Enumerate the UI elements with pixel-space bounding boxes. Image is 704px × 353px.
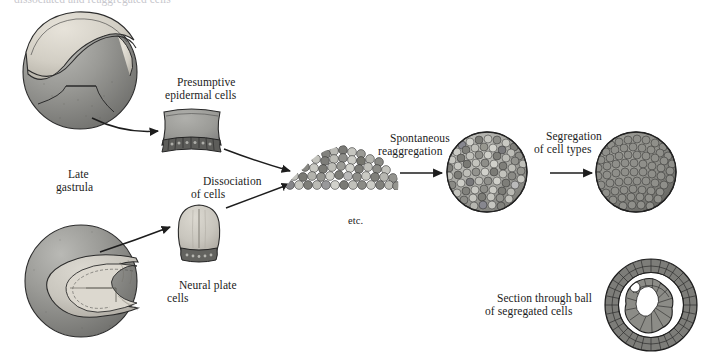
label-spontaneous-reaggregation: Spontaneous reaggregation	[378, 118, 450, 172]
label-dissociation-of-cells: Dissociation of cells	[191, 161, 262, 215]
diagram-artwork	[0, 0, 704, 353]
neurula-embryo	[25, 225, 138, 337]
segregated-sphere	[594, 132, 676, 212]
reaggregated-sphere	[445, 132, 527, 212]
late-gastrula-embryo	[23, 12, 137, 129]
label-neural-plate-cells: Neural plate cells	[167, 265, 237, 319]
figure-canvas: dissociated and reaggregated cells	[0, 0, 704, 353]
label-presumptive-epidermal-cells: Presumptive epidermal cells	[165, 62, 236, 116]
label-etc: etc.	[337, 200, 363, 241]
label-late-gastrula: Late gastrula	[56, 154, 93, 208]
label-section-through-ball: Section through ball of segregated cells	[485, 278, 592, 332]
section-through-ball-figure	[605, 259, 697, 351]
label-segregation-of-cell-types: Segregation of cell types	[534, 116, 602, 170]
